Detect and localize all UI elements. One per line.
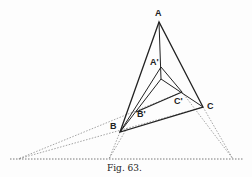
label-c: C: [207, 102, 214, 111]
label-c-prime: C': [174, 97, 183, 106]
ray-jb: [120, 79, 161, 132]
extension-line-ab: [109, 132, 120, 159]
edge-a'c': [161, 67, 182, 92]
figure-63: A A' B B' C C' Fig. 63.: [0, 0, 252, 177]
label-a: A: [155, 9, 162, 18]
extension-line-ac: [203, 107, 233, 159]
label-a-prime: A': [150, 58, 159, 67]
figure-caption: Fig. 63.: [107, 164, 142, 173]
desargues-diagram: [0, 0, 252, 177]
extension-line-c'b': [18, 92, 182, 159]
label-b: B: [110, 122, 117, 131]
edge-a'b: [120, 67, 161, 132]
label-b-prime: B': [137, 110, 146, 119]
extension-line-a'b': [109, 128, 127, 159]
